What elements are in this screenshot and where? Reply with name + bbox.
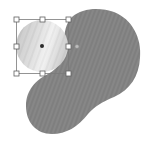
drawing-canvas[interactable] <box>0 0 146 146</box>
handle-top-center[interactable] <box>40 17 45 22</box>
handle-middle-right[interactable] <box>66 44 71 49</box>
handle-bottom-right[interactable] <box>66 71 71 76</box>
handle-middle-left[interactable] <box>14 44 19 49</box>
center-point-icon <box>40 44 44 48</box>
handle-top-right[interactable] <box>66 17 71 22</box>
handle-top-left[interactable] <box>14 17 19 22</box>
handle-bottom-center[interactable] <box>40 71 45 76</box>
canvas-svg <box>0 0 146 146</box>
rotation-handle[interactable] <box>75 45 79 49</box>
handle-bottom-left[interactable] <box>14 71 19 76</box>
